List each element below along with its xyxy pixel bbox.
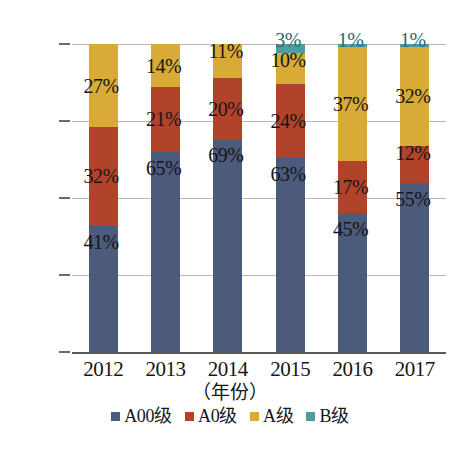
data-label-2014-A0级: 20%	[195, 99, 256, 119]
legend-swatch-icon-B级	[306, 412, 315, 421]
legend-swatch-icon-A0级	[185, 412, 194, 421]
data-label-2013-A00级: 65%	[133, 158, 194, 178]
legend-label-A级: A级	[263, 407, 293, 426]
data-label-2012-A0级: 32%	[71, 166, 132, 186]
data-label-2016-A00级: 45%	[320, 219, 381, 239]
stacked-bar-chart: 100%75%50%25%0% 41%32%27%65%21%14%69%20%…	[0, 0, 460, 458]
data-label-2016-A级: 37%	[320, 94, 381, 114]
y-tick-mark-100	[59, 43, 70, 45]
data-label-2012-A级: 27%	[71, 76, 132, 96]
legend-label-A0级: A0级	[198, 407, 237, 426]
data-label-2015-B级: 3%	[258, 30, 319, 50]
x-tick-label-2014: 2014	[193, 358, 263, 380]
data-label-2017-A00级: 55%	[382, 189, 443, 209]
y-tick-mark-50	[59, 197, 70, 199]
y-tick-mark-0	[59, 351, 70, 353]
x-tick-label-2013: 2013	[131, 358, 201, 380]
data-label-2016-B级: 1%	[320, 30, 381, 50]
data-label-2014-A级: 11%	[195, 41, 256, 61]
data-label-2016-A0级: 17%	[320, 177, 381, 197]
y-tick-mark-25	[59, 274, 70, 276]
y-tick-mark-75	[59, 120, 70, 122]
x-tick-label-2015: 2015	[255, 358, 325, 380]
x-axis-title: （年份）	[0, 383, 460, 403]
data-label-2017-A级: 32%	[382, 86, 443, 106]
legend-label-B级: B级	[319, 407, 348, 426]
data-label-2014-A00级: 69%	[195, 145, 256, 165]
x-tick-label-2012: 2012	[68, 358, 138, 380]
legend-item-A级[interactable]: A级	[250, 407, 293, 426]
data-labels-layer: 41%32%27%65%21%14%69%20%11%63%24%10%3%45…	[72, 44, 446, 352]
chart-legend: A00级A0级A级B级	[0, 407, 460, 426]
data-label-2017-A0级: 12%	[382, 143, 443, 163]
legend-item-A0级[interactable]: A0级	[185, 407, 237, 426]
data-label-2015-A00级: 63%	[258, 164, 319, 184]
x-tick-label-2017: 2017	[380, 358, 450, 380]
plot-area: 41%32%27%65%21%14%69%20%11%63%24%10%3%45…	[72, 44, 446, 352]
data-label-2012-A00级: 41%	[71, 232, 132, 252]
legend-item-B级[interactable]: B级	[306, 407, 348, 426]
data-label-2017-B级: 1%	[382, 30, 443, 50]
legend-item-A00级[interactable]: A00级	[111, 407, 172, 426]
legend-swatch-icon-A00级	[111, 412, 120, 421]
legend-swatch-icon-A级	[250, 412, 259, 421]
x-tick-label-2016: 2016	[318, 358, 388, 380]
data-label-2013-A0级: 21%	[133, 109, 194, 129]
data-label-2015-A0级: 24%	[258, 111, 319, 131]
data-label-2013-A级: 14%	[133, 56, 194, 76]
legend-label-A00级: A00级	[124, 407, 172, 426]
gridline-0	[72, 352, 446, 354]
data-label-2015-A级: 10%	[258, 50, 319, 70]
